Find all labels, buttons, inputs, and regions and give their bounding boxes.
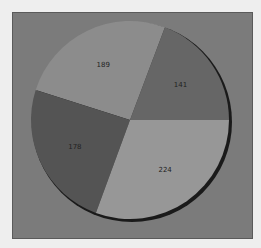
slice-label: 224 — [158, 166, 172, 174]
slice-label: 141 — [174, 81, 187, 89]
pie-chart: 141189178224 — [0, 0, 261, 248]
slice-label: 189 — [97, 61, 110, 69]
slice-label: 178 — [68, 143, 81, 151]
